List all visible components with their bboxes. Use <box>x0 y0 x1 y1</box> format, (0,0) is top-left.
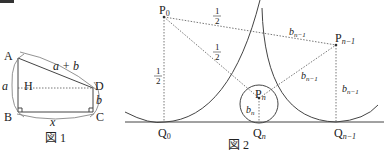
point-Pn1: Pn−1 <box>335 31 355 46</box>
label-b: b <box>96 93 102 107</box>
diagram-canvas: A H D B C a a + b b x 図 1 P0 Pn−1 Pn Q0 <box>0 0 390 151</box>
circle-Pn1-arc <box>262 8 378 122</box>
label-bn1-diag: bn−1 <box>301 70 318 83</box>
svg-text:2: 2 <box>156 76 161 86</box>
label-x: x <box>49 115 56 129</box>
label-half-vert: 1 2 <box>154 66 162 86</box>
figure-2-caption: 図 2 <box>228 138 249 151</box>
point-H: H <box>24 79 33 93</box>
point-C: C <box>96 110 104 124</box>
segment-P0-Pn <box>164 17 259 98</box>
segment-P0-Pn1 <box>164 17 336 45</box>
figure-1-caption: 図 1 <box>45 131 66 145</box>
figure-1: A H D B C a a + b b x 図 1 <box>2 49 104 145</box>
svg-text:2: 2 <box>215 52 220 62</box>
right-angle-C <box>89 108 93 112</box>
figure-2: P0 Pn−1 Pn Q0 Qn Qn−1 1 2 1 2 1 2 bn−1 b… <box>125 0 384 151</box>
label-a: a <box>2 79 8 93</box>
point-A: A <box>4 49 13 63</box>
svg-text:1: 1 <box>215 42 220 52</box>
svg-text:1: 1 <box>156 66 161 76</box>
segment-Pn-Pn1 <box>259 45 336 98</box>
label-bn1-vert: bn−1 <box>342 83 359 96</box>
point-B: B <box>4 110 12 124</box>
label-bn: bn <box>246 104 255 117</box>
label-half-top: 1 2 <box>213 6 221 26</box>
point-Pn: Pn <box>255 87 266 102</box>
point-Q0: Q0 <box>158 126 171 141</box>
point-Qn1: Qn−1 <box>334 126 356 141</box>
point-P0: P0 <box>159 3 170 18</box>
label-a-plus-b: a + b <box>53 59 79 73</box>
label-half-diag: 1 2 <box>213 42 221 62</box>
corner-mark <box>0 0 14 3</box>
brace-x <box>17 114 94 119</box>
label-bn1-top: bn−1 <box>289 26 306 39</box>
point-Qn: Qn <box>253 126 266 141</box>
svg-text:1: 1 <box>215 6 220 16</box>
point-D: D <box>95 79 104 93</box>
svg-text:2: 2 <box>215 16 220 26</box>
right-angle-B <box>18 108 22 112</box>
